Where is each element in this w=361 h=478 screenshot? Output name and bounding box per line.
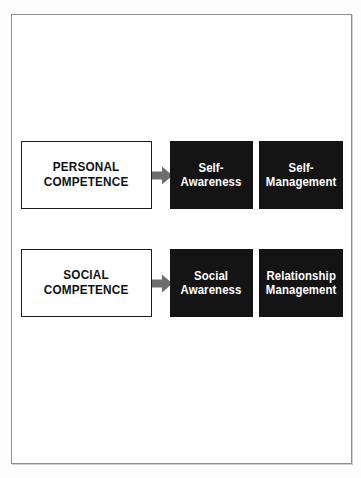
domain-box-relationship-management[interactable]: Relationship Management	[259, 249, 343, 317]
diagram-page: PERSONAL COMPETENCE Self- Awareness Self…	[0, 0, 361, 478]
diagram-row-social: SOCIAL COMPETENCE Social Awareness Relat…	[12, 249, 353, 317]
domain-box-self-awareness[interactable]: Self- Awareness	[170, 141, 253, 209]
competence-box-social[interactable]: SOCIAL COMPETENCE	[21, 249, 152, 317]
diagram-row-personal: PERSONAL COMPETENCE Self- Awareness Self…	[12, 141, 353, 209]
domain-label-self-awareness: Self- Awareness	[181, 161, 242, 190]
competence-box-personal[interactable]: PERSONAL COMPETENCE	[21, 141, 152, 209]
competence-label-social: SOCIAL COMPETENCE	[44, 268, 129, 298]
domain-label-relationship-management: Relationship Management	[266, 269, 337, 298]
domain-label-self-management: Self- Management	[266, 161, 337, 190]
domain-box-self-management[interactable]: Self- Management	[259, 141, 343, 209]
page-frame: PERSONAL COMPETENCE Self- Awareness Self…	[11, 14, 352, 464]
competence-label-personal: PERSONAL COMPETENCE	[44, 160, 129, 190]
domain-label-social-awareness: Social Awareness	[181, 269, 242, 298]
domain-box-social-awareness[interactable]: Social Awareness	[170, 249, 253, 317]
